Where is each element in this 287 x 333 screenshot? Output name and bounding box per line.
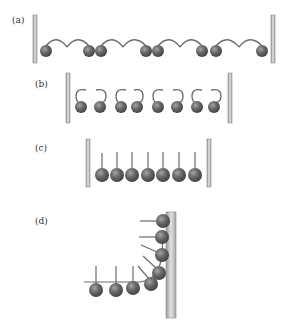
sphere: [208, 101, 220, 113]
right-wall: [166, 212, 176, 318]
sphere: [172, 168, 186, 182]
sphere: [196, 45, 208, 57]
spheres: [40, 45, 268, 57]
sphere: [152, 45, 164, 57]
panel-b: (b): [35, 73, 232, 123]
sphere: [156, 168, 170, 182]
sphere: [156, 214, 170, 228]
sphere: [83, 45, 95, 57]
sphere: [140, 45, 152, 57]
stems: [96, 221, 157, 284]
panel-a: (a): [12, 15, 275, 63]
sphere: [131, 101, 143, 113]
panel-d: (d): [35, 212, 176, 318]
sphere: [171, 101, 183, 113]
sphere: [188, 168, 202, 182]
right-wall: [207, 139, 211, 187]
sphere: [94, 101, 106, 113]
sphere: [95, 168, 109, 182]
right-wall: [228, 73, 232, 123]
panel-label-a: (a): [12, 15, 24, 25]
spheres: [89, 214, 170, 297]
panel-c: (c): [35, 139, 211, 187]
figure-canvas: (a) (b): [0, 0, 287, 333]
left-wall: [66, 73, 70, 123]
sphere: [75, 101, 87, 113]
sphere: [152, 266, 166, 280]
sphere: [95, 45, 107, 57]
panel-label-c: (c): [35, 143, 47, 153]
sphere: [126, 281, 140, 295]
left-wall: [86, 139, 90, 187]
sphere: [125, 168, 139, 182]
sphere: [191, 101, 203, 113]
right-wall: [271, 15, 275, 63]
sphere: [152, 101, 164, 113]
sphere: [141, 168, 155, 182]
sphere: [89, 283, 103, 297]
hooks: [46, 40, 262, 47]
sphere: [115, 101, 127, 113]
sphere: [155, 230, 169, 244]
spheres: [75, 101, 220, 113]
sphere: [210, 45, 222, 57]
sphere: [256, 45, 268, 57]
left-wall: [33, 15, 37, 63]
stems: [102, 152, 195, 168]
sphere: [40, 45, 52, 57]
panel-label-d: (d): [35, 216, 48, 226]
panel-label-b: (b): [35, 79, 48, 89]
spheres: [95, 168, 202, 182]
sphere: [155, 248, 169, 262]
sphere: [110, 168, 124, 182]
sphere: [109, 283, 123, 297]
hooks: [76, 90, 221, 103]
